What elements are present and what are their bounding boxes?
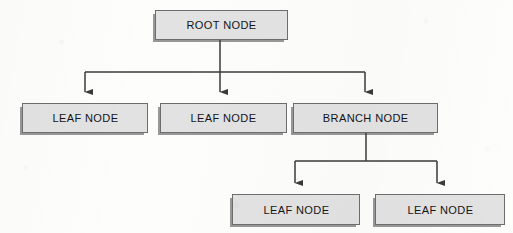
node-leaf-1[interactable]: LEAF NODE — [22, 103, 148, 133]
node-leaf-1-label: LEAF NODE — [52, 112, 118, 124]
node-leaf-4[interactable]: LEAF NODE — [375, 194, 505, 225]
node-root[interactable]: ROOT NODE — [155, 10, 288, 40]
node-leaf-3-label: LEAF NODE — [263, 204, 329, 216]
tree-diagram-canvas: ROOT NODE LEAF NODE LEAF NODE BRANCH NOD… — [0, 0, 513, 233]
node-leaf-4-label: LEAF NODE — [407, 204, 473, 216]
node-branch-1-label: BRANCH NODE — [323, 112, 409, 124]
node-branch-1[interactable]: BRANCH NODE — [293, 103, 438, 133]
node-leaf-2-label: LEAF NODE — [190, 112, 256, 124]
node-leaf-3[interactable]: LEAF NODE — [232, 194, 360, 225]
node-root-label: ROOT NODE — [186, 19, 256, 31]
node-leaf-2[interactable]: LEAF NODE — [160, 103, 287, 133]
